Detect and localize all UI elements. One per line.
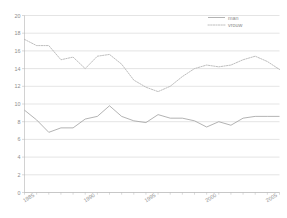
x-tick-label: 1985	[22, 192, 35, 203]
y-tick-label: 12	[15, 83, 21, 89]
x-axis-ticks: 19851990199520002005	[22, 192, 280, 203]
x-tick-label: 1990	[83, 192, 96, 203]
data-series-group	[25, 39, 280, 132]
y-tick-label: 0	[18, 190, 21, 196]
y-tick-label: 20	[15, 13, 21, 19]
line-chart: 02468101214161820 19851990199520002005 m…	[0, 0, 287, 218]
x-tick-label: 2005	[265, 192, 278, 203]
chart-canvas: 02468101214161820 19851990199520002005 m…	[0, 0, 287, 218]
y-tick-label: 6	[18, 136, 21, 142]
y-tick-label: 16	[15, 48, 21, 54]
y-tick-label: 2	[18, 172, 21, 178]
y-tick-label: 4	[18, 154, 21, 160]
y-tick-label: 10	[15, 101, 21, 107]
x-tick-label: 2000	[204, 192, 217, 203]
gridlines	[25, 16, 280, 193]
chart-legend: manvrouw	[208, 15, 242, 29]
y-tick-label: 8	[18, 119, 21, 125]
y-tick-label: 18	[15, 30, 21, 36]
series-line-man	[25, 106, 280, 133]
series-line-vrouw	[25, 39, 280, 91]
legend-label-man: man	[228, 15, 239, 21]
y-axis-ticks: 02468101214161820	[15, 13, 25, 196]
x-tick-label: 1995	[143, 192, 156, 203]
legend-label-vrouw: vrouw	[228, 22, 242, 28]
y-tick-label: 14	[15, 66, 21, 72]
